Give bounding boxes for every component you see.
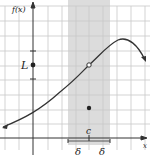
c-label: c — [86, 126, 91, 136]
filled-point-icon — [87, 106, 91, 110]
x-axis-label: x — [143, 142, 147, 150]
x-axis-arrow-icon — [141, 136, 147, 140]
open-circle-icon — [87, 63, 91, 67]
y-axis-arrow-icon — [31, 2, 35, 8]
graph: f(x) x L c δ δ — [0, 0, 150, 161]
y-axis-label: f(x) — [11, 5, 26, 14]
limit-label: L — [20, 59, 28, 72]
delta-right-label: δ — [99, 146, 105, 157]
limit-diagram: f(x) x L c δ δ — [0, 0, 150, 161]
curve-right-arrow-icon — [141, 56, 146, 62]
delta-left-label: δ — [75, 146, 81, 157]
limit-point-icon — [31, 63, 36, 68]
